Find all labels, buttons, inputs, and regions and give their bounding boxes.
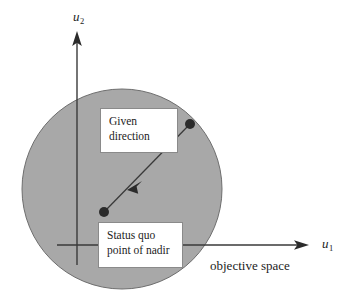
callout-given-direction: Given direction xyxy=(100,108,178,153)
status-quo-point-marker xyxy=(99,207,109,217)
x-axis-label-text: u xyxy=(322,236,329,251)
y-axis-label-text: u xyxy=(73,9,80,24)
y-axis-label-subscript: 2 xyxy=(80,16,84,26)
callout-status-quo: Status quo point of nadir xyxy=(98,222,183,268)
y-axis-label: u2 xyxy=(73,9,84,25)
objective-space-label: objective space xyxy=(210,258,290,274)
x-axis-label-subscript: 1 xyxy=(329,243,333,253)
x-axis-label: u1 xyxy=(322,236,333,252)
objective-space-diagram: u2 u1 objective space Given direction St… xyxy=(0,0,360,305)
direction-endpoint-marker xyxy=(185,119,195,129)
